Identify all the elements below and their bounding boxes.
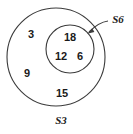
inner-member-12: 12 [55, 50, 67, 62]
inner-member-6: 6 [77, 50, 83, 62]
outer-member-15: 15 [56, 87, 68, 99]
outer-member-3: 3 [28, 28, 34, 40]
venn-diagram-svg: S6 S3 3 9 15 18 12 6 [0, 0, 133, 134]
outer-set-label-s3: S3 [55, 114, 67, 126]
inner-member-18: 18 [64, 31, 76, 43]
outer-member-9: 9 [24, 67, 30, 79]
inner-set-label-s6: S6 [112, 13, 124, 25]
s6-leader-arrow-icon [87, 28, 94, 34]
set-diagram: S6 S3 3 9 15 18 12 6 [0, 0, 133, 134]
